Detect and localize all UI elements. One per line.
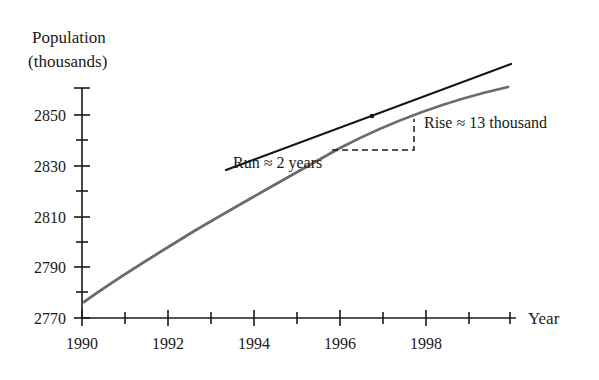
y-tick-label-2790: 2790 [34, 259, 66, 276]
y-axis-title-line1: Population [32, 28, 106, 47]
y-axis-title-line2: (thousands) [28, 52, 107, 71]
chart-canvas: Population (thousands) 2770 2790 2810 28… [0, 0, 599, 380]
y-tick-label-2770: 2770 [34, 310, 66, 327]
x-tick-label-1994: 1994 [238, 335, 270, 352]
rise-annotation-label: Rise ≈ 13 thousand [424, 114, 547, 131]
y-tick-label-2830: 2830 [34, 158, 66, 175]
tangent-point-marker [370, 114, 375, 119]
y-tick-label-2850: 2850 [34, 107, 66, 124]
x-tick-label-1996: 1996 [324, 335, 356, 352]
x-tick-label-1998: 1998 [410, 335, 442, 352]
x-tick-label-1992: 1992 [152, 335, 184, 352]
population-growth-chart: Population (thousands) 2770 2790 2810 28… [0, 0, 599, 380]
x-tick-label-1990: 1990 [66, 335, 98, 352]
y-tick-label-2810: 2810 [34, 209, 66, 226]
run-annotation-label: Run ≈ 2 years [233, 154, 322, 172]
x-axis-title: Year [528, 309, 560, 328]
